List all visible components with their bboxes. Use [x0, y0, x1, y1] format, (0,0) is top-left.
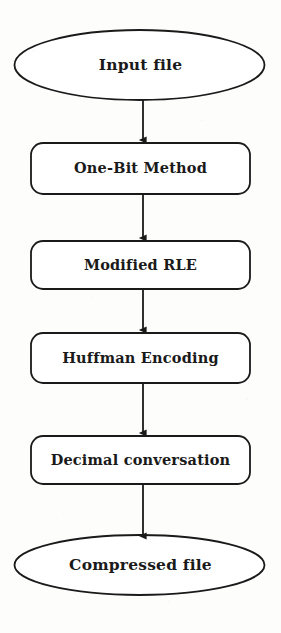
node-huffman-encoding — [31, 333, 250, 383]
node-decimal-conversation — [31, 436, 250, 484]
flowchart-canvas — [0, 0, 281, 633]
flowchart-diagram: Input file One-Bit Method Modified RLE H… — [0, 0, 281, 633]
node-compressed-file — [15, 535, 265, 595]
node-modified-rle — [31, 241, 250, 289]
node-one-bit-method — [31, 143, 250, 194]
node-input-file — [15, 30, 265, 100]
